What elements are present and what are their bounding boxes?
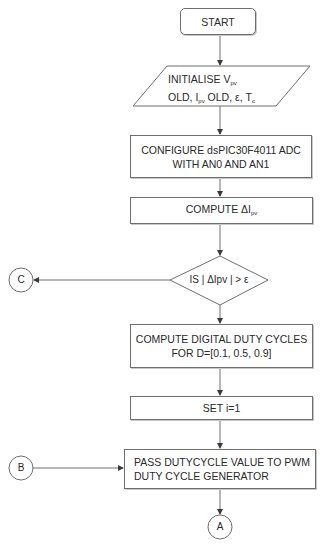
compute-delta-label: COMPUTE ΔIpv [186,202,258,220]
initialise-text: INITIALISE Vpv OLD, Ipv OLD, ε, Tc [168,72,255,108]
start-terminal: START [180,8,256,35]
start-label: START [201,15,234,29]
compute-delta-box: COMPUTE ΔIpv [130,197,313,224]
connector-c-label: C [9,268,33,292]
set-i-label: SET i=1 [203,401,240,415]
pass-duty-line1: PASS DUTYCYCLE VALUE TO PWM [134,455,310,469]
compute-duty-box: COMPUTE DIGITAL DUTY CYCLES FOR D=[0.1, … [130,324,313,368]
connector-b-label: B [9,456,33,480]
compute-duty-line2: FOR D=[0.1, 0.5, 0.9] [171,346,271,360]
pass-duty-line2: DUTY CYCLE GENERATOR [134,469,269,483]
set-i-box: SET i=1 [130,396,313,420]
configure-line1: CONFIGURE dsPIC30F4011 ADC [141,143,301,157]
initialise-line2: OLD, Ipv OLD, ε, Tc [168,90,255,108]
pass-duty-box: PASS DUTYCYCLE VALUE TO PWM DUTY CYCLE G… [124,449,316,489]
compute-duty-line1: COMPUTE DIGITAL DUTY CYCLES [136,332,307,346]
initialise-line1: INITIALISE Vpv [168,72,255,90]
connector-a-label: A [208,515,232,539]
configure-line2: WITH AN0 AND AN1 [173,157,270,171]
configure-adc-box: CONFIGURE dsPIC30F4011 ADC WITH AN0 AND … [130,135,312,178]
decision-label: IS | ΔIpv | > ε [170,273,268,287]
